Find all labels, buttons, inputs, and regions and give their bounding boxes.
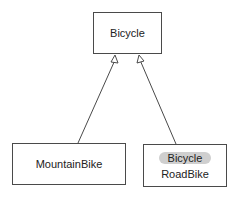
class-box-mountainbike[interactable]: MountainBike	[12, 143, 126, 185]
class-box-bicycle[interactable]: Bicycle	[93, 12, 162, 54]
class-name: RoadBike	[161, 168, 209, 180]
class-box-roadbike[interactable]: Bicycle RoadBike	[143, 144, 227, 187]
parent-class-tag: Bicycle	[159, 152, 211, 164]
class-name: Bicycle	[110, 27, 145, 39]
mountainbike-to-bicycle-line	[78, 60, 115, 143]
class-name: MountainBike	[36, 158, 103, 170]
hollow-arrowhead-icon	[111, 55, 118, 63]
hollow-arrowhead-icon	[137, 55, 144, 63]
roadbike-to-bicycle-line	[140, 60, 176, 144]
